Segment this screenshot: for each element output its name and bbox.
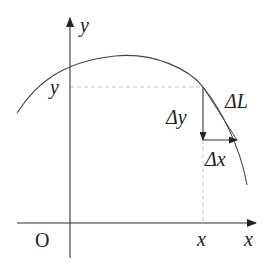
diagram-canvas: y x O y x Δy ΔL Δx: [0, 0, 277, 271]
delta-y-label: Δy: [165, 106, 187, 129]
y-axis-label: y: [78, 14, 89, 37]
delta-x-label: Δx: [204, 148, 226, 170]
origin-label: O: [35, 229, 49, 251]
x-tick-label: x: [196, 228, 206, 250]
arc-length-diagram: y x O y x Δy ΔL Δx: [0, 0, 277, 271]
delta-l-label: ΔL: [224, 90, 248, 112]
x-axis-label: x: [243, 228, 253, 250]
y-tick-label: y: [48, 76, 59, 99]
